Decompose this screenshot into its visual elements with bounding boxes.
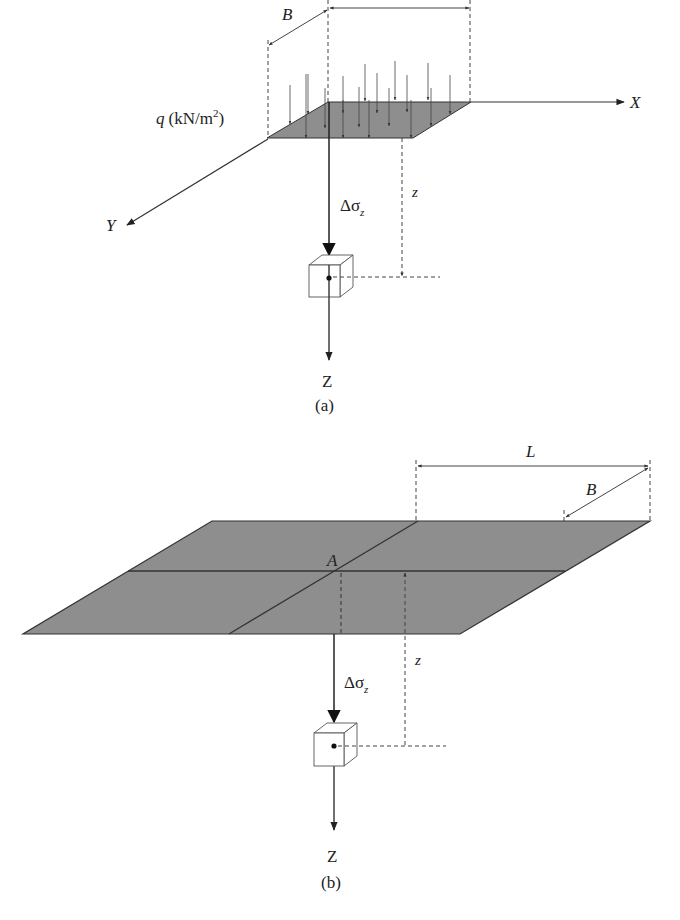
point-dot-b xyxy=(331,743,336,748)
caption-b: (b) xyxy=(321,873,341,892)
dim-b-label: B xyxy=(282,5,293,24)
x-axis-label: X xyxy=(629,93,641,112)
width-dimension-b xyxy=(566,468,648,517)
stress-label-b: Δσz xyxy=(344,673,369,695)
soil-element-cube-a xyxy=(309,255,353,297)
loaded-area-b xyxy=(23,521,650,634)
z-axis-label-b: Z xyxy=(327,847,337,866)
point-dot-a xyxy=(326,275,331,280)
z-axis-label-a: Z xyxy=(322,372,332,391)
dim-l-label: L xyxy=(525,442,535,461)
dim-b-label-b: B xyxy=(586,480,597,499)
width-dimension-a xyxy=(269,10,327,45)
stress-label-a: Δσz xyxy=(340,196,365,218)
point-a-label: A xyxy=(326,551,338,570)
y-axis-label: Y xyxy=(106,216,117,235)
figure-a: B qq (kN/m²)(kN/m2) X Y xyxy=(106,0,641,415)
depth-label-a: z xyxy=(411,184,418,200)
figure-b: L B A Δσz z Z (b) xyxy=(23,442,650,892)
load-label: qq (kN/m²)(kN/m2) xyxy=(156,107,224,128)
depth-label-b: z xyxy=(414,652,421,668)
caption-a: (a) xyxy=(315,396,334,415)
y-axis xyxy=(127,139,268,225)
diagram-canvas: B qq (kN/m²)(kN/m2) X Y xyxy=(0,0,680,920)
